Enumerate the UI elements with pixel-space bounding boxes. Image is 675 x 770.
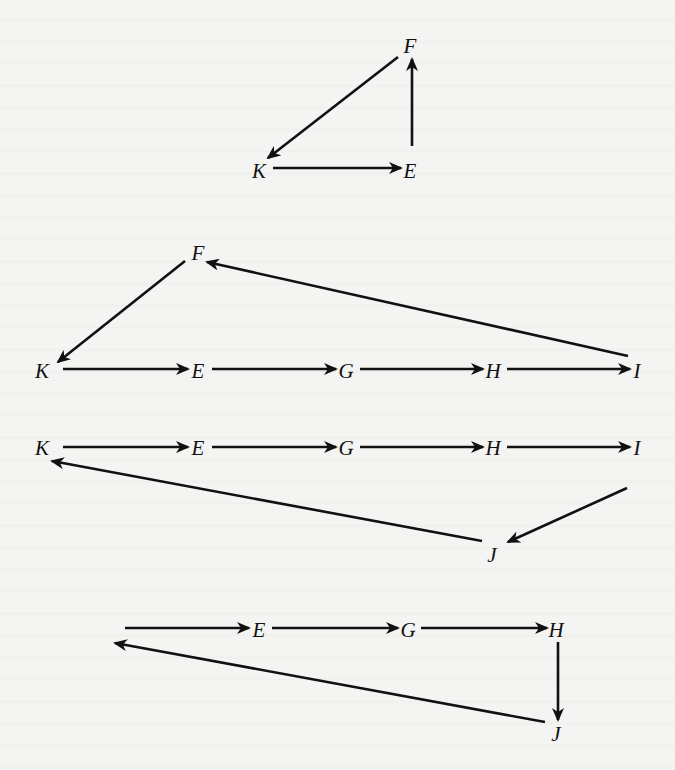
edge-arrow-f-to-k (268, 57, 398, 158)
diagram-cycle-k-e-f: FKE (251, 34, 417, 183)
node-label-i: I (633, 359, 642, 383)
node-label-h: H (484, 359, 502, 383)
node-label-e: E (191, 436, 205, 460)
node-label-h: H (547, 618, 565, 642)
node-label-e: E (252, 618, 266, 642)
node-label-f: F (191, 241, 205, 265)
node-label-g: G (338, 436, 353, 460)
node-label-e: E (191, 359, 205, 383)
node-label-k: K (34, 436, 50, 460)
node-label-i: I (633, 436, 642, 460)
edge-arrow-j-to-start (115, 643, 545, 722)
node-label-g: G (338, 359, 353, 383)
node-label-f: F (403, 34, 417, 58)
edge-arrow-i-to-f (207, 262, 628, 356)
diagram-cycle-e-g-h-j-open: EGHJ (115, 618, 565, 746)
edge-arrow-j-to-k (52, 461, 482, 541)
edge-arrow-f-to-k (58, 261, 185, 362)
node-label-e: E (403, 159, 417, 183)
node-label-k: K (34, 359, 50, 383)
graph-diagram-figure: FKEFKEGHIKEGHIJEGHJ (0, 0, 675, 770)
diagram-cycle-k-e-g-h-i-f: FKEGHI (34, 241, 642, 383)
node-label-g: G (400, 618, 415, 642)
node-label-j: J (487, 543, 498, 567)
diagram-cycle-k-e-g-h-i-j: KEGHIJ (34, 436, 642, 567)
edge-arrow-i-to-j (508, 488, 627, 542)
node-label-h: H (484, 436, 502, 460)
node-label-j: J (551, 722, 562, 746)
node-label-k: K (251, 159, 267, 183)
diagrams-root: FKEFKEGHIKEGHIJEGHJ (34, 34, 642, 746)
